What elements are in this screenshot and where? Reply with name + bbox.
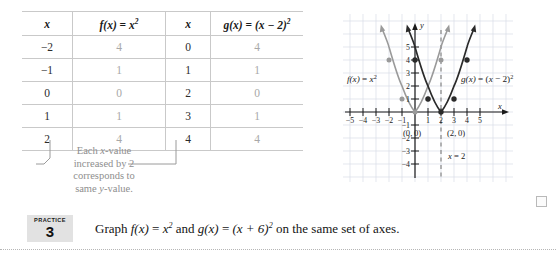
- svg-text:4: 4: [465, 116, 469, 125]
- svg-text:3: 3: [406, 69, 410, 78]
- values-table: x f(x) = x2 x g(x) = (x − 2)2 −2 4 0 4 −…: [22, 11, 303, 151]
- annotation-text: Each x-value increased by 2 corresponds …: [38, 145, 170, 195]
- table-row: −2 4 0 4: [22, 36, 303, 59]
- cell-x2: 0: [166, 36, 211, 59]
- svg-text:1: 1: [426, 116, 430, 125]
- prompt-pre: Graph: [95, 221, 131, 236]
- practice-number: 3: [27, 224, 73, 240]
- cell-x2: 1: [166, 59, 211, 82]
- svg-text:2: 2: [439, 116, 443, 125]
- table-body: −2 4 0 4 −1 1 1 1 0 0 2 0: [22, 36, 303, 151]
- header-gx-expr: (x − 2): [255, 18, 287, 30]
- svg-text:−5: −5: [346, 116, 354, 125]
- prompt-g: g(x): [198, 221, 219, 236]
- svg-text:4: 4: [406, 56, 410, 65]
- svg-text:2: 2: [406, 82, 410, 91]
- header-fx-exponent: 2: [135, 17, 139, 26]
- annotation-line-2: increased by 2: [74, 158, 135, 169]
- practice-prompt: Graph f(x) = x2 and g(x) = (x + 6)2 on t…: [95, 215, 399, 237]
- prompt-expr: (x + 6): [232, 221, 268, 236]
- curve-f-label: f(x) = x2: [347, 73, 377, 84]
- x-axis-label: x: [497, 101, 502, 111]
- table-row: 1 1 3 1: [22, 105, 303, 128]
- table-row: 0 0 2 0: [22, 82, 303, 105]
- cell-x2: 2: [166, 82, 211, 105]
- cell-fx: 1: [73, 105, 166, 128]
- coordinate-plane: y x −5 −4 −3 −2 −1 1 2 3 4 5 5 4 3 2: [341, 12, 516, 184]
- annotation-line-1: Each x-value: [77, 145, 132, 156]
- practice-badge: PRACTICE 3: [27, 215, 73, 242]
- cell-gx: 1: [211, 59, 304, 82]
- column-header-gx: g(x) = (x − 2)2: [211, 12, 304, 36]
- svg-text:−2: −2: [385, 116, 393, 125]
- svg-text:−4: −4: [359, 116, 367, 125]
- vertex-f-label: (0, 0): [403, 128, 421, 138]
- svg-text:−3: −3: [402, 147, 410, 156]
- svg-text:−3: −3: [372, 116, 380, 125]
- graph-figure: y x −5 −4 −3 −2 −1 1 2 3 4 5 5 4 3 2: [341, 12, 516, 184]
- vertex-g-label: (2, 0): [447, 128, 465, 138]
- prompt-post: on the same set of axes.: [273, 221, 400, 236]
- annotation-line-3: corresponds to: [73, 170, 135, 181]
- x-tick-labels: −5 −4 −3 −2 −1 1 2 3 4 5: [346, 116, 482, 125]
- header-gx-eq: =: [245, 18, 252, 30]
- svg-text:−4: −4: [402, 160, 410, 169]
- cell-fx: 4: [73, 36, 166, 59]
- cell-gx: 0: [211, 82, 304, 105]
- svg-text:5: 5: [406, 43, 410, 52]
- annotation-line-4: same y-value.: [75, 183, 133, 194]
- header-x2-symbol: x: [185, 18, 191, 30]
- cell-x1: 0: [22, 82, 73, 105]
- end-of-section-marker: [536, 196, 547, 207]
- cell-gx: 1: [211, 105, 304, 128]
- header-x-symbol: x: [44, 18, 50, 30]
- textbook-page: x f(x) = x2 x g(x) = (x − 2)2 −2 4 0 4 −…: [0, 0, 556, 256]
- cell-x1: −1: [22, 59, 73, 82]
- svg-text:5: 5: [478, 116, 482, 125]
- prompt-and: and: [172, 221, 197, 236]
- curve-g-label: g(x) = (x − 2)2: [461, 73, 513, 84]
- cell-x2: 3: [166, 105, 211, 128]
- asymptote-label: x = 2: [447, 151, 465, 161]
- practice-problem: PRACTICE 3 Graph f(x) = x2 and g(x) = (x…: [27, 215, 399, 242]
- cell-fx: 0: [73, 82, 166, 105]
- table-row: −1 1 1 1: [22, 59, 303, 82]
- cell-fx: 1: [73, 59, 166, 82]
- prompt-eq1: =: [149, 221, 163, 236]
- svg-text:3: 3: [452, 116, 456, 125]
- header-fx-fn: f(x): [99, 18, 116, 30]
- column-header-x2: x: [166, 12, 211, 36]
- y-tick-labels: 5 4 3 2 1 −1 −2 −3 −4: [402, 43, 410, 169]
- prompt-f: f(x): [131, 221, 149, 236]
- prompt-eq2: =: [219, 221, 233, 236]
- header-fx-eq: =: [120, 18, 127, 30]
- cell-x1: 1: [22, 105, 73, 128]
- table-header-row: x f(x) = x2 x g(x) = (x − 2)2: [22, 12, 303, 36]
- cell-gx: 4: [211, 36, 304, 59]
- column-header-x1: x: [22, 12, 73, 36]
- y-axis-label: y: [419, 20, 424, 30]
- values-table-container: x f(x) = x2 x g(x) = (x − 2)2 −2 4 0 4 −…: [22, 11, 300, 151]
- column-header-fx: f(x) = x2: [73, 12, 166, 36]
- cell-x1: −2: [22, 36, 73, 59]
- svg-text:1: 1: [406, 95, 410, 104]
- header-gx-exponent: 2: [287, 17, 291, 26]
- header-gx-fn: g(x): [223, 18, 242, 30]
- footer-divider: [0, 249, 556, 250]
